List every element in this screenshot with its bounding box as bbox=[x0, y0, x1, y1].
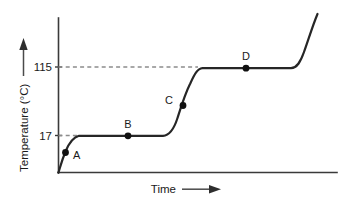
y-axis-arrow-icon bbox=[19, 38, 27, 76]
data-point-d bbox=[243, 65, 250, 72]
y-tick-label-lower: 17 bbox=[39, 130, 52, 142]
data-point-c bbox=[180, 102, 187, 109]
y-tick-label-upper: 115 bbox=[34, 61, 52, 73]
data-point-label-d: D bbox=[242, 50, 250, 62]
data-point-b bbox=[125, 132, 132, 139]
data-point-label-b: B bbox=[124, 118, 131, 130]
x-axis-arrow-icon bbox=[182, 185, 221, 194]
data-point-label-a: A bbox=[73, 149, 81, 161]
heating-curve-figure: Temperature (°C) 115 17 A B C D Time bbox=[0, 0, 347, 202]
data-point-a bbox=[62, 149, 69, 156]
x-axis-title: Time bbox=[151, 183, 176, 195]
data-point-label-c: C bbox=[165, 94, 173, 106]
heating-curve-line bbox=[59, 14, 318, 173]
y-axis-title: Temperature (°C) bbox=[18, 84, 30, 172]
